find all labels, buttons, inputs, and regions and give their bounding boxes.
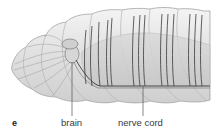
nerve-cord-label: nerve cord — [118, 118, 163, 128]
brain-label: brain — [61, 118, 82, 128]
earthworm-diagram: e brain nerve cord — [0, 0, 217, 132]
earthworm-illustration — [0, 0, 217, 132]
panel-letter: e — [12, 119, 17, 128]
gut — [82, 33, 210, 88]
